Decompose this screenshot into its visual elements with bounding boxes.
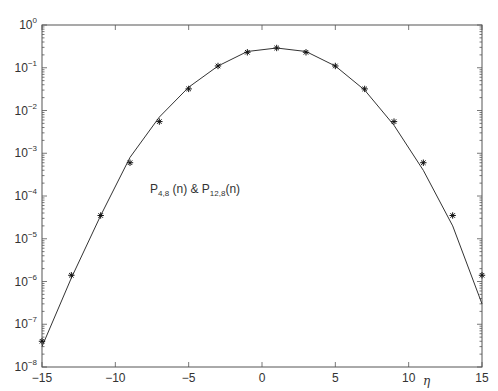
asterisk-marker xyxy=(215,63,221,69)
series-annotation: P4,8 (n) & P12,8(n) xyxy=(150,182,240,198)
plot-frame xyxy=(42,25,482,367)
asterisk-marker xyxy=(97,212,103,218)
asterisk-marker xyxy=(273,45,279,51)
x-tick-label: −5 xyxy=(182,371,196,385)
x-tick-label: 10 xyxy=(402,371,416,385)
asterisk-marker xyxy=(244,49,250,55)
asterisk-marker xyxy=(420,160,426,166)
asterisk-marker xyxy=(361,86,367,92)
y-tick-label: 10−5 xyxy=(15,230,38,246)
asterisk-marker xyxy=(303,49,309,55)
asterisk-marker xyxy=(391,118,397,124)
x-tick-label: 15 xyxy=(475,371,489,385)
y-tick-label: 10−1 xyxy=(15,59,38,75)
x-axis-ticks: −15−10−5051015 xyxy=(32,25,489,385)
x-tick-label: −15 xyxy=(32,371,53,385)
x-tick-label: 5 xyxy=(332,371,339,385)
x-tick-label: −10 xyxy=(105,371,126,385)
y-tick-label: 100 xyxy=(19,16,37,32)
asterisk-marker xyxy=(449,212,455,218)
series-line xyxy=(42,48,482,347)
asterisk-marker xyxy=(127,160,133,166)
asterisk-marker xyxy=(479,272,485,278)
asterisk-marker xyxy=(68,272,74,278)
y-tick-label: 10−4 xyxy=(15,187,38,203)
x-tick-label: 0 xyxy=(259,371,266,385)
asterisk-marker xyxy=(332,63,338,69)
y-tick-label: 10−2 xyxy=(15,102,38,118)
log-plot: 10010−110−210−310−410−510−610−710−8 −15−… xyxy=(0,0,498,391)
asterisk-marker xyxy=(156,118,162,124)
y-tick-label: 10−6 xyxy=(15,273,38,289)
y-tick-label: 10−7 xyxy=(15,315,38,331)
y-tick-label: 10−3 xyxy=(15,144,38,160)
y-axis-ticks: 10010−110−210−310−410−510−610−710−8 xyxy=(15,16,482,374)
asterisk-marker xyxy=(39,338,45,344)
asterisk-marker xyxy=(185,86,191,92)
series-markers xyxy=(39,45,485,345)
x-axis-label: η xyxy=(423,374,431,388)
